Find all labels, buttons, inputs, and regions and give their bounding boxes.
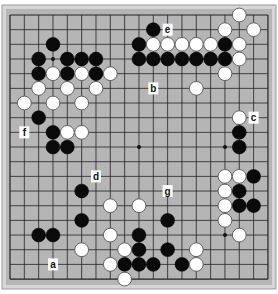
white-stone[interactable]	[247, 23, 261, 37]
white-stone[interactable]	[75, 96, 89, 110]
white-stone[interactable]	[218, 169, 232, 183]
black-stone[interactable]	[32, 52, 46, 66]
go-board-canvas[interactable]: abcdefg	[0, 0, 278, 294]
white-stone[interactable]	[118, 243, 132, 257]
star-point	[223, 233, 227, 237]
black-stone[interactable]	[75, 52, 89, 66]
white-stone[interactable]	[218, 23, 232, 37]
black-stone[interactable]	[89, 52, 103, 66]
white-stone[interactable]	[218, 213, 232, 227]
label-text: a	[50, 259, 56, 270]
black-stone[interactable]	[218, 37, 232, 51]
white-stone[interactable]	[75, 125, 89, 139]
black-stone[interactable]	[232, 184, 246, 198]
label-text: c	[251, 112, 257, 123]
star-point	[51, 57, 55, 61]
label-text: g	[165, 186, 171, 197]
black-stone[interactable]	[132, 228, 146, 242]
white-stone[interactable]	[161, 37, 175, 51]
black-stone[interactable]	[32, 111, 46, 125]
black-stone[interactable]	[60, 140, 74, 154]
black-stone[interactable]	[132, 243, 146, 257]
white-stone[interactable]	[60, 125, 74, 139]
black-stone[interactable]	[46, 228, 60, 242]
white-stone[interactable]	[132, 199, 146, 213]
black-stone[interactable]	[46, 125, 60, 139]
white-stone[interactable]	[189, 81, 203, 95]
white-stone[interactable]	[204, 37, 218, 51]
white-stone[interactable]	[103, 257, 117, 271]
white-stone[interactable]	[46, 96, 60, 110]
star-point	[137, 145, 141, 149]
label-text: d	[93, 171, 99, 182]
white-stone[interactable]	[146, 37, 160, 51]
black-stone[interactable]	[218, 52, 232, 66]
white-stone[interactable]	[103, 228, 117, 242]
label-text: e	[165, 24, 171, 35]
white-stone[interactable]	[75, 243, 89, 257]
black-stone[interactable]	[89, 67, 103, 81]
black-stone[interactable]	[46, 140, 60, 154]
black-stone[interactable]	[175, 257, 189, 271]
black-stone[interactable]	[232, 140, 246, 154]
black-stone[interactable]	[132, 37, 146, 51]
white-stone[interactable]	[232, 8, 246, 22]
point-label-f[interactable]: f	[19, 126, 29, 138]
point-label-g[interactable]: g	[163, 185, 173, 197]
white-stone[interactable]	[232, 228, 246, 242]
white-stone[interactable]	[232, 111, 246, 125]
white-stone[interactable]	[189, 243, 203, 257]
point-label-a[interactable]: a	[48, 258, 58, 270]
black-stone[interactable]	[247, 199, 261, 213]
black-stone[interactable]	[146, 257, 160, 271]
white-stone[interactable]	[232, 37, 246, 51]
white-stone[interactable]	[189, 37, 203, 51]
white-stone[interactable]	[32, 81, 46, 95]
black-stone[interactable]	[161, 52, 175, 66]
label-text: b	[150, 83, 156, 94]
black-stone[interactable]	[75, 213, 89, 227]
black-stone[interactable]	[232, 199, 246, 213]
black-stone[interactable]	[189, 52, 203, 66]
star-point	[223, 145, 227, 149]
point-label-e[interactable]: e	[163, 24, 173, 36]
white-stone[interactable]	[175, 37, 189, 51]
white-stone[interactable]	[118, 272, 132, 286]
black-stone[interactable]	[132, 52, 146, 66]
point-label-b[interactable]: b	[148, 82, 158, 94]
white-stone[interactable]	[189, 257, 203, 271]
black-stone[interactable]	[247, 169, 261, 183]
point-label-c[interactable]: c	[249, 112, 259, 124]
black-stone[interactable]	[161, 243, 175, 257]
white-stone[interactable]	[218, 67, 232, 81]
white-stone[interactable]	[103, 67, 117, 81]
white-stone[interactable]	[75, 67, 89, 81]
black-stone[interactable]	[146, 52, 160, 66]
go-board[interactable]: abcdefg	[0, 0, 278, 294]
black-stone[interactable]	[60, 52, 74, 66]
white-stone[interactable]	[232, 169, 246, 183]
white-stone[interactable]	[17, 96, 31, 110]
black-stone[interactable]	[161, 213, 175, 227]
black-stone[interactable]	[32, 228, 46, 242]
white-stone[interactable]	[218, 199, 232, 213]
black-stone[interactable]	[175, 52, 189, 66]
white-stone[interactable]	[218, 184, 232, 198]
black-stone[interactable]	[132, 257, 146, 271]
white-stone[interactable]	[60, 81, 74, 95]
black-stone[interactable]	[118, 257, 132, 271]
black-stone[interactable]	[75, 184, 89, 198]
point-label-d[interactable]: d	[91, 170, 101, 182]
white-stone[interactable]	[46, 67, 60, 81]
black-stone[interactable]	[146, 23, 160, 37]
white-stone[interactable]	[103, 199, 117, 213]
white-stone[interactable]	[232, 52, 246, 66]
black-stone[interactable]	[32, 67, 46, 81]
white-stone[interactable]	[89, 81, 103, 95]
black-stone[interactable]	[204, 52, 218, 66]
black-stone[interactable]	[46, 37, 60, 51]
black-stone[interactable]	[60, 67, 74, 81]
black-stone[interactable]	[232, 125, 246, 139]
